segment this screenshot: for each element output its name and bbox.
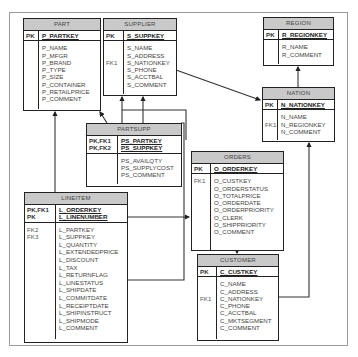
field: C_ACCTBAL <box>220 309 275 316</box>
field: S_PHONE <box>127 66 173 73</box>
pk-label: PK <box>263 100 278 109</box>
table-customer[interactable]: CUSTOMER PK C_CUSTKEY FK1 C_NAME C_ADDRE… <box>197 254 279 341</box>
pk-label: PK <box>264 30 279 39</box>
pk-field: PS_SUPPKEY <box>121 144 178 151</box>
pk-section: PK R_REGIONKEY <box>264 30 333 40</box>
field: L_SHIPINSTRUCT <box>59 309 124 317</box>
fields-section: FK2 FK3 L_PARTKEY L_SUPPKEY L_QUANTITY L… <box>25 223 127 339</box>
table-title: PARTSUPP <box>87 124 181 136</box>
table-title: CUSTOMER <box>198 255 278 267</box>
field: O_CLERK <box>214 214 280 221</box>
table-title: PART <box>24 19 100 31</box>
table-title: ORDERS <box>192 152 283 164</box>
fk-label: FK1 <box>200 295 214 302</box>
field: O_SHIPPRIORITY <box>214 221 280 228</box>
field: L_COMMITDATE <box>59 294 124 302</box>
table-supplier[interactable]: SUPPLIER PK S_SUPPKEY FK1 S_NAME S_ADDRE… <box>103 18 177 96</box>
fields-section: FK1 O_CUSTKEY O_ORDERSTATUS O_TOTALPRICE… <box>192 174 283 250</box>
field: C_COMMENT <box>220 324 275 331</box>
field: N_COMMENT <box>281 128 331 135</box>
fields-section: R_NAME R_COMMENT <box>264 40 333 64</box>
field: L_DISCOUNT <box>59 256 124 264</box>
field: L_SHIPMODE <box>59 317 124 325</box>
field: C_PHONE <box>220 302 275 309</box>
field: L_COMMENT <box>59 324 124 332</box>
pk-label: PK <box>27 213 53 220</box>
field: S_ACCTBAL <box>127 73 173 80</box>
pk-section: PK,FK1 PK L_ORDERKEY L_LINENUMBER <box>25 205 127 223</box>
field: C_NAME <box>220 280 275 287</box>
table-orders[interactable]: ORDERS PK O_ORDERKEY FK1 O_CUSTKEY O_ORD… <box>191 151 284 251</box>
pk-label: PK,FK2 <box>89 144 115 151</box>
field: C_NATIONKEY <box>220 295 275 302</box>
field: L_EXTENDEDPRICE <box>59 248 124 256</box>
table-region[interactable]: REGION PK R_REGIONKEY R_NAME R_COMMENT <box>263 17 334 66</box>
table-title: REGION <box>264 18 333 30</box>
field: L_SHIPDATE <box>59 286 124 294</box>
field: N_REGIONKEY <box>281 121 331 128</box>
field: PS_COMMENT <box>121 171 178 178</box>
field: S_COMMENT <box>127 81 173 88</box>
field: P_COMMENT <box>42 95 97 102</box>
pk-section: PK O_ORDERKEY <box>192 164 283 174</box>
table-nation[interactable]: NATION PK N_NATIONKEY FK1 N_NAME N_REGIO… <box>262 87 335 142</box>
pk-field: S_SUPPKEY <box>127 32 173 39</box>
pk-label: PK,FK1 <box>89 137 115 144</box>
fk-label: FK1 <box>106 59 121 66</box>
field: L_SUPPKEY <box>59 233 124 241</box>
field: L_PARTKEY <box>59 226 124 234</box>
pk-label: PK <box>192 164 211 173</box>
pk-label: PK <box>24 31 39 40</box>
field: P_TYPE <box>42 66 97 73</box>
field: O_ORDERDATE <box>214 199 280 206</box>
pk-section: PK S_SUPPKEY <box>104 31 176 41</box>
pk-label: PK <box>104 31 124 40</box>
field: L_LINESTATUS <box>59 279 124 287</box>
field: S_ADDRESS <box>127 52 173 59</box>
table-title: LINEITEM <box>25 193 127 205</box>
pk-field: O_ORDERKEY <box>214 165 280 172</box>
fields-section: FK1 S_NAME S_ADDRESS S_NATIONKEY S_PHONE… <box>104 41 176 94</box>
field: P_RETAILPRICE <box>42 88 97 95</box>
field: L_QUANTITY <box>59 241 124 249</box>
field: O_TOTALPRICE <box>214 192 280 199</box>
table-partsupp[interactable]: PARTSUPP PK,FK1 PK,FK2 PS_PARTKEY PS_SUP… <box>86 123 182 187</box>
field: P_MFGR <box>42 52 97 59</box>
field: L_TAX <box>59 264 124 272</box>
fk-label: FK1 <box>265 121 275 128</box>
table-title: NATION <box>263 88 334 100</box>
fields-section: PS_AVAILQTY PS_SUPPLYCOST PS_COMMENT <box>87 154 181 184</box>
field: L_RECEIPTDATE <box>59 302 124 310</box>
field: O_ORDERSTATUS <box>214 185 280 192</box>
pk-section: PK,FK1 PK,FK2 PS_PARTKEY PS_SUPPKEY <box>87 136 181 154</box>
pk-field: L_LINENUMBER <box>59 213 124 220</box>
field: N_NAME <box>281 113 331 120</box>
field: P_CONTAINER <box>42 81 97 88</box>
fields-section: FK1 N_NAME N_REGIONKEY N_COMMENT <box>263 110 334 140</box>
field: C_MKTSEGMENT <box>220 317 275 324</box>
pk-field: N_NATIONKEY <box>281 101 331 108</box>
fk-label: FK2 <box>27 226 53 233</box>
fields-section: P_NAME P_MFGR P_BRAND P_TYPE P_SIZE P_CO… <box>24 41 100 109</box>
table-lineitem[interactable]: LINEITEM PK,FK1 PK L_ORDERKEY L_LINENUMB… <box>24 192 128 343</box>
pk-field: R_REGIONKEY <box>282 31 330 38</box>
field: O_ORDERPRIORITY <box>214 206 280 213</box>
field: P_BRAND <box>42 59 97 66</box>
field: S_NAME <box>127 44 173 51</box>
table-part[interactable]: PART PK P_PARTKEY P_NAME P_MFGR P_BRAND … <box>23 18 101 111</box>
fk-label: FK3 <box>27 233 53 240</box>
pk-section: PK N_NATIONKEY <box>263 100 334 110</box>
field: L_RETURNFLAG <box>59 271 124 279</box>
pk-section: PK C_CUSTKEY <box>198 267 278 277</box>
table-title: SUPPLIER <box>104 19 176 31</box>
pk-field: PS_PARTKEY <box>121 137 178 144</box>
field: P_NAME <box>42 44 97 51</box>
field: O_COMMENT <box>214 228 280 235</box>
pk-field: P_PARTKEY <box>42 32 97 39</box>
pk-field: C_CUSTKEY <box>220 268 275 275</box>
field: C_ADDRESS <box>220 288 275 295</box>
fields-section: FK1 C_NAME C_ADDRESS C_NATIONKEY C_PHONE… <box>198 277 278 339</box>
pk-section: PK P_PARTKEY <box>24 31 100 41</box>
field: R_NAME <box>282 43 330 50</box>
fk-label: FK1 <box>194 177 208 184</box>
